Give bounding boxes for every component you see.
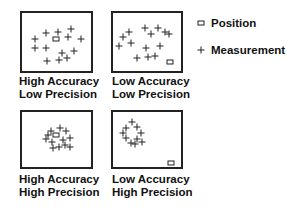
panel-label-accuracy: Low Accuracy	[112, 173, 193, 186]
measurement-plus-icon	[157, 43, 164, 50]
measurement-plus-icon	[64, 55, 71, 62]
panel-label-precision: Low Precision	[112, 88, 190, 101]
measurement-plus-icon	[43, 45, 50, 52]
panel-label-precision: Low Precision	[19, 88, 99, 101]
measurement-plus-icon	[155, 25, 162, 32]
target-panel-high-accuracy-high-precision	[20, 110, 93, 169]
panel-label-accuracy: High Accuracy	[19, 75, 99, 88]
target-panel-low-accuracy-low-precision	[111, 11, 183, 73]
measurement-plus-icon	[128, 40, 135, 47]
measurement-plus-icon	[56, 57, 63, 64]
position-square-icon	[53, 133, 60, 138]
plus-icon	[196, 46, 205, 55]
measurement-plus-icon	[139, 139, 146, 146]
measurement-plus-icon	[67, 135, 74, 142]
panel-label-accuracy: High Accuracy	[19, 173, 100, 186]
panel-label-1: High Accuracy Low Precision	[19, 75, 99, 101]
measurement-plus-icon	[120, 34, 127, 41]
legend-label-position: Position	[211, 17, 256, 29]
measurement-plus-icon	[143, 45, 150, 52]
legend-item-position: Position	[196, 17, 256, 29]
panel-label-precision: High Precision	[19, 186, 100, 199]
measurement-plus-icon	[32, 45, 39, 52]
measurement-plus-icon	[134, 55, 141, 62]
panel-label-accuracy: Low Accuracy	[112, 75, 190, 88]
measurement-plus-icon	[55, 29, 62, 36]
legend-item-measurement: Measurement	[196, 44, 285, 56]
target-panel-low-accuracy-high-precision	[111, 110, 183, 169]
measurement-plus-icon	[166, 31, 173, 38]
panel-label-precision: High Precision	[112, 186, 193, 199]
measurement-plus-icon	[63, 128, 70, 135]
panel-label-2: Low Accuracy Low Precision	[112, 75, 190, 101]
measurement-plus-icon	[148, 31, 155, 38]
measurement-plus-icon	[126, 29, 133, 36]
measurement-plus-icon	[78, 36, 85, 43]
measurement-plus-icon	[145, 54, 152, 61]
position-square-icon	[53, 37, 60, 42]
panel-label-3: High Accuracy High Precision	[19, 173, 100, 199]
measurement-plus-icon	[43, 30, 50, 37]
measurement-plus-icon	[32, 36, 39, 43]
target-panel-high-accuracy-low-precision	[20, 11, 93, 73]
measurement-plus-icon	[68, 26, 75, 33]
measurement-plus-icon	[44, 58, 51, 65]
panel-label-4: Low Accuracy High Precision	[112, 173, 193, 199]
measurement-plus-icon	[67, 144, 74, 151]
position-square-icon	[167, 60, 174, 65]
legend-label-measurement: Measurement	[211, 44, 285, 56]
measurement-plus-icon	[65, 34, 72, 41]
square-icon	[196, 19, 205, 28]
measurement-plus-icon	[56, 144, 63, 151]
measurement-plus-icon	[116, 43, 123, 50]
measurement-plus-icon	[132, 141, 139, 148]
measurement-plus-icon	[152, 53, 159, 60]
position-square-icon	[168, 161, 175, 166]
measurement-plus-icon	[71, 48, 78, 55]
